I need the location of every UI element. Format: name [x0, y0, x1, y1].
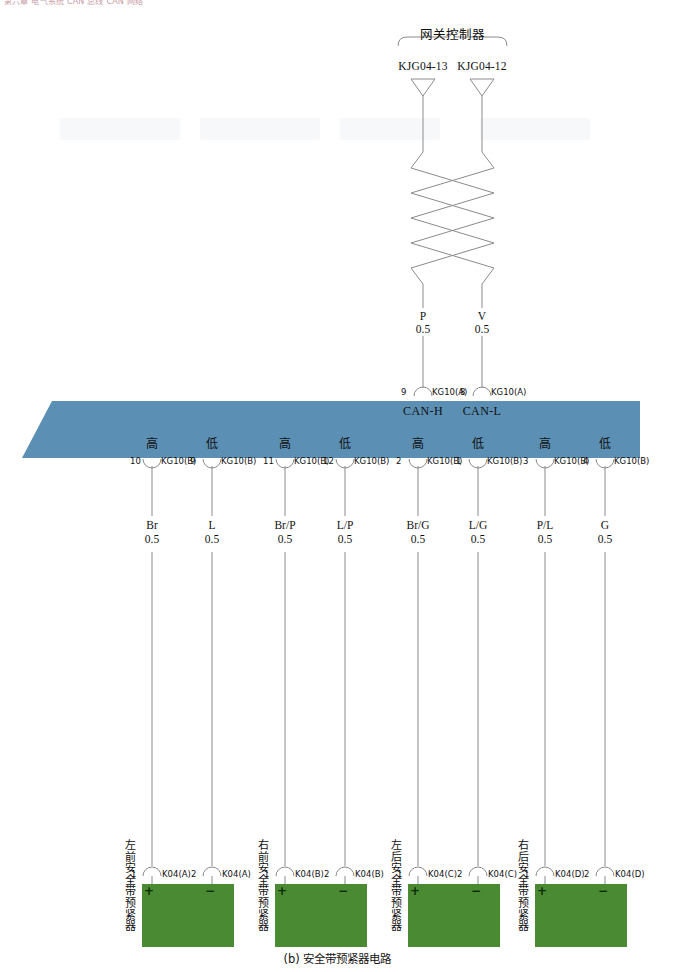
bus-level-label-8: 低 [599, 434, 611, 451]
pretensioner-box-3[interactable] [408, 884, 500, 947]
pretensioner-box-4[interactable] [535, 884, 627, 947]
device-connector-arc-4b [596, 867, 614, 876]
device-pin-connector-3-1: K04(C) [428, 869, 457, 879]
wire-label-4: L/P0.5 [337, 519, 354, 546]
bus-top-pin-2: 8 [460, 387, 465, 397]
gateway-terminal-label-2: KJG04-12 [457, 60, 507, 72]
bus-top-pin-1: 9 [401, 387, 406, 397]
wire-gateway-left [411, 96, 423, 168]
device-polarity-2-2: − [338, 884, 348, 898]
bus-bottom-pin-5: 2 [396, 456, 401, 466]
twisted-wire-label-1: P0.5 [416, 310, 430, 336]
bus-bottom-pin-1: 10 [130, 456, 141, 466]
bus-signal-label-2: CAN-L [463, 404, 502, 419]
wire-label-1: Br0.5 [145, 519, 159, 546]
connector-arc-top-8 [473, 387, 491, 396]
wiring-diagram-canvas [0, 0, 675, 972]
twist-crossing-2 [411, 193, 494, 218]
wire-label-5: Br/G0.5 [407, 519, 430, 546]
device-pin-connector-4-1: K04(D) [555, 869, 585, 879]
wire-v-upper [482, 268, 494, 308]
bus-top-connector-2: KG10(A) [491, 387, 526, 397]
wire-label-2: L0.5 [205, 519, 219, 546]
device-pin-connector-3-2: K04(C) [488, 869, 517, 879]
device-polarity-3-2: − [471, 884, 481, 898]
gateway-terminal-label-1: KJG04-13 [398, 60, 448, 72]
bus-signal-label-1: CAN-H [403, 404, 443, 419]
connector-triangle-kjg04-12 [470, 79, 494, 96]
device-polarity-3-1: + [410, 884, 420, 898]
twist-crossing-3 [411, 218, 494, 243]
device-pin-num-2-1: 1 [264, 869, 269, 879]
device-polarity-2-1: + [277, 884, 287, 898]
device-polarity-1-2: − [205, 884, 215, 898]
twist-crossing-4 [411, 243, 494, 268]
device-connector-arc-3b [469, 867, 487, 876]
bus-bottom-pin-4: 12 [323, 456, 334, 466]
pretensioner-label-2: 右前安全带预紧器 [257, 840, 269, 933]
pretensioner-box-1[interactable] [142, 884, 234, 947]
device-pin-num-2-2: 2 [324, 869, 329, 879]
twist-crossing-1 [411, 168, 494, 193]
device-pin-connector-4-2: K04(D) [615, 869, 645, 879]
device-connector-arc-4a [536, 867, 554, 876]
bus-bottom-connector-2: KG10(B) [221, 456, 256, 466]
bus-level-label-7: 高 [539, 434, 551, 451]
device-connector-arc-2b [336, 867, 354, 876]
gateway-title: 网关控制器 [420, 24, 485, 43]
bus-bottom-connector-8: KG10(B) [614, 456, 649, 466]
wire-label-3: Br/P0.5 [274, 519, 295, 546]
connector-arc-top-9 [414, 387, 432, 396]
wire-label-7: P/L0.5 [537, 519, 554, 546]
device-pin-connector-1-2: K04(A) [222, 869, 251, 879]
device-pin-num-4-2: 2 [584, 869, 589, 879]
pretensioner-label-4: 右后安全带预紧器 [517, 840, 529, 933]
pretensioner-box-2[interactable] [275, 884, 367, 947]
bus-bottom-connector-6: KG10(B) [487, 456, 522, 466]
bus-level-label-5: 高 [412, 434, 424, 451]
device-pin-num-3-1: 1 [397, 869, 402, 879]
figure-caption: (b) 安全带预紧器电路 [0, 950, 675, 966]
device-pin-num-1-2: 2 [191, 869, 196, 879]
twisted-wire-label-2: V0.5 [475, 310, 489, 336]
wire-gateway-right [482, 96, 494, 168]
bus-bottom-pin-3: 11 [263, 456, 274, 466]
bus-level-label-2: 低 [206, 434, 218, 451]
device-connector-arc-3a [409, 867, 427, 876]
wire-p-upper [411, 268, 423, 308]
device-pin-num-1-1: 1 [131, 869, 136, 879]
device-pin-connector-1-1: K04(A) [162, 869, 191, 879]
device-polarity-4-1: + [537, 884, 547, 898]
bus-bottom-pin-8: 4 [583, 456, 588, 466]
device-polarity-4-2: − [598, 884, 608, 898]
bus-bottom-connector-4: KG10(B) [354, 456, 389, 466]
bus-level-label-4: 低 [339, 434, 351, 451]
connector-triangle-kjg04-13 [411, 79, 435, 96]
pretensioner-label-1: 左前安全带预紧器 [124, 840, 136, 933]
device-pin-num-3-2: 2 [457, 869, 462, 879]
bus-bottom-pin-2: 9 [190, 456, 195, 466]
device-pin-connector-2-1: K04(B) [295, 869, 324, 879]
device-connector-arc-1a [143, 867, 161, 876]
device-connector-arc-2a [276, 867, 294, 876]
bus-bottom-pin-7: 3 [523, 456, 528, 466]
device-polarity-1-1: + [144, 884, 154, 898]
device-pin-connector-2-2: K04(B) [355, 869, 384, 879]
device-connector-arc-1b [203, 867, 221, 876]
pretensioner-label-3: 左后安全带预紧器 [390, 840, 402, 933]
device-pin-num-4-1: 1 [524, 869, 529, 879]
wire-label-8: G0.5 [598, 519, 612, 546]
bus-level-label-1: 高 [146, 434, 158, 451]
bus-bottom-pin-6: 1 [456, 456, 461, 466]
wire-label-6: L/G0.5 [469, 519, 488, 546]
bus-level-label-6: 低 [472, 434, 484, 451]
bus-level-label-3: 高 [279, 434, 291, 451]
